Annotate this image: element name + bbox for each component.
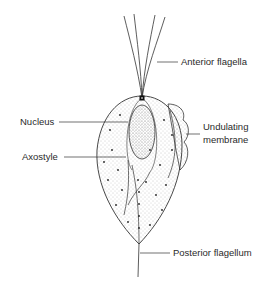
label-axostyle: Axostyle [22, 151, 58, 162]
label-nucleus: Nucleus [20, 116, 54, 127]
posterior-flagellum [138, 244, 139, 277]
anterior-flagella [124, 14, 165, 98]
protozoan-diagram: Anterior flagella Nucleus Undulating mem… [0, 0, 277, 291]
label-undulating-membrane-line2: membrane [203, 134, 248, 145]
label-posterior-flagellum: Posterior flagellum [173, 247, 252, 258]
label-undulating-membrane-line1: Undulating [203, 121, 248, 132]
nucleus [129, 105, 155, 159]
label-anterior-flagella: Anterior flagella [181, 56, 247, 67]
